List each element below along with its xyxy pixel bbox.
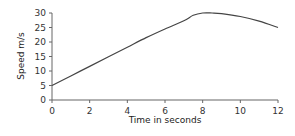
x-tick-label: 12	[272, 106, 283, 116]
y-tick-label: 0	[40, 95, 46, 105]
y-tick-label: 5	[40, 81, 46, 91]
y-tick-label: 20	[35, 37, 47, 47]
y-axis-title: Speed m/s	[16, 32, 26, 80]
plot-area: 051015202530 024681012	[35, 8, 284, 116]
y-tick-label: 25	[35, 23, 46, 33]
x-tick-label: 2	[87, 106, 93, 116]
y-tick-label: 30	[35, 8, 47, 18]
speed-line	[52, 13, 278, 86]
y-tick-label: 15	[35, 52, 46, 62]
y-tick-label: 10	[35, 66, 47, 76]
x-ticks: 024681012	[49, 100, 284, 116]
x-tick-label: 10	[235, 106, 247, 116]
speed-time-chart: 051015202530 024681012 Time in seconds S…	[0, 0, 295, 136]
x-tick-label: 0	[49, 106, 55, 116]
x-axis-title: Time in seconds	[128, 115, 202, 125]
y-ticks: 051015202530	[35, 8, 52, 105]
